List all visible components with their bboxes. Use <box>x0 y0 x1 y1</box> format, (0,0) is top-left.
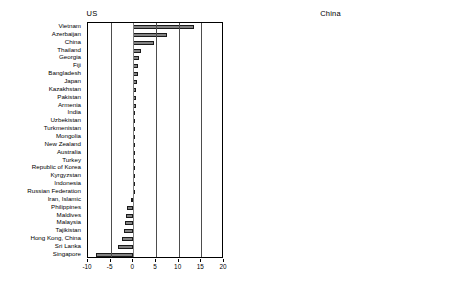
category-label: Sri Lanka <box>0 242 84 250</box>
gridline <box>179 23 180 257</box>
category-label: Philippines <box>0 203 84 211</box>
x-tick-label: 15 <box>197 263 204 270</box>
x-tick-label: 0 <box>131 263 135 270</box>
bar-thailand <box>133 49 140 53</box>
category-label-text: Indonesia <box>54 180 81 186</box>
category-label-text: Tajikistan <box>56 227 81 233</box>
category-label: Thailand <box>0 46 84 54</box>
category-label: New Zealand <box>0 140 84 148</box>
chart-title-us: US <box>0 9 208 18</box>
category-label-text: Kazakhstan <box>49 86 81 92</box>
category-label-text: China <box>65 39 81 45</box>
x-tick-mark <box>155 259 156 262</box>
plot-area-us <box>87 22 223 258</box>
bar-tajikistan <box>124 229 134 233</box>
category-label: Iran, Islamic <box>0 195 84 203</box>
x-tick-mark <box>110 259 111 262</box>
chart-panel-china: China Hong Kong, ChinaMongoliaSingaporeP… <box>232 0 465 286</box>
x-tick-label: 5 <box>153 263 157 270</box>
category-label-text: Iran, Islamic <box>48 196 81 202</box>
gridline <box>111 23 112 257</box>
category-labels-us: VietnamAzerbaijanChinaThailandGeorgiaFij… <box>0 22 84 258</box>
category-label: Hong Kong, China <box>0 234 84 242</box>
bar-azerbaijan <box>133 33 167 37</box>
category-label-text: New Zealand <box>45 141 81 147</box>
category-label-text: Maldives <box>57 211 81 217</box>
category-label: Mongolia <box>0 132 84 140</box>
x-tick-mark <box>223 259 224 262</box>
category-label: Maldives <box>0 211 84 219</box>
x-tick-label: -10 <box>82 263 91 270</box>
category-label: Indonesia <box>0 179 84 187</box>
category-label: India <box>0 108 84 116</box>
bar-sri-lanka <box>118 245 133 249</box>
category-label-text: Fiji <box>73 62 81 68</box>
category-label-text: Thailand <box>57 46 81 52</box>
x-tick-label: 20 <box>219 263 226 270</box>
category-label-text: Hong Kong, China <box>30 235 81 241</box>
category-label-text: Mongolia <box>56 133 81 139</box>
bar-vietnam <box>133 25 194 29</box>
category-label-text: Vietnam <box>58 23 81 29</box>
x-tick-mark <box>178 259 179 262</box>
category-label: Singapore <box>0 250 84 258</box>
category-label: Armenia <box>0 101 84 109</box>
category-label: Pakistan <box>0 93 84 101</box>
x-tick-mark <box>132 259 133 262</box>
category-label-text: Pakistan <box>57 94 81 100</box>
category-label: Turkmenistan <box>0 124 84 132</box>
x-tick-label: 10 <box>174 263 181 270</box>
category-label: Malaysia <box>0 218 84 226</box>
chart-title-china: China <box>214 9 447 18</box>
category-label: Australia <box>0 148 84 156</box>
category-label: Kazakhstan <box>0 85 84 93</box>
category-label-text: Singapore <box>53 251 81 257</box>
category-label: Kyrgyzstan <box>0 171 84 179</box>
category-label-text: Sri Lanka <box>55 243 81 249</box>
category-label-text: Malaysia <box>57 219 81 225</box>
category-label-text: Russian Federation <box>27 188 81 194</box>
zero-line <box>133 23 134 257</box>
category-label-text: Turkey <box>62 156 81 162</box>
bar-singapore <box>96 253 133 257</box>
bar-china <box>133 41 154 45</box>
category-label-text: Bangladesh <box>48 70 81 76</box>
chart-figure: US VietnamAzerbaijanChinaThailandGeorgia… <box>0 0 465 286</box>
category-label: Uzbekistan <box>0 116 84 124</box>
category-label-text: Uzbekistan <box>50 117 81 123</box>
bar-maldives <box>126 214 133 218</box>
x-tick-label: -5 <box>107 263 113 270</box>
category-label-text: Japan <box>64 78 81 84</box>
gridline <box>156 23 157 257</box>
bar-philippines <box>127 206 134 210</box>
category-label-text: Kyrgyzstan <box>50 172 81 178</box>
category-label-text: India <box>68 109 81 115</box>
category-label: Bangladesh <box>0 69 84 77</box>
category-label: Republic of Korea <box>0 163 84 171</box>
category-label-text: Turkmenistan <box>44 125 81 131</box>
category-label: Georgia <box>0 53 84 61</box>
x-tick-mark <box>200 259 201 262</box>
category-label: Turkey <box>0 156 84 164</box>
x-tick-mark <box>87 259 88 262</box>
category-label-text: Philippines <box>51 204 81 210</box>
bar-hong-kong-china <box>122 237 134 241</box>
bar-malaysia <box>125 221 133 225</box>
category-label-text: Republic of Korea <box>32 164 81 170</box>
category-label: China <box>0 38 84 46</box>
category-label-text: Georgia <box>59 54 81 60</box>
category-label: Azerbaijan <box>0 30 84 38</box>
category-label-text: Australia <box>57 149 81 155</box>
category-label: Vietnam <box>0 22 84 30</box>
category-label: Russian Federation <box>0 187 84 195</box>
x-axis-us: -10-505101520 <box>87 259 223 275</box>
category-label-text: Armenia <box>58 101 81 107</box>
chart-panel-us: US VietnamAzerbaijanChinaThailandGeorgia… <box>0 0 232 286</box>
category-label: Fiji <box>0 61 84 69</box>
category-label: Japan <box>0 77 84 85</box>
category-label-text: Azerbaijan <box>52 31 81 37</box>
category-label: Tajikistan <box>0 226 84 234</box>
gridline <box>201 23 202 257</box>
